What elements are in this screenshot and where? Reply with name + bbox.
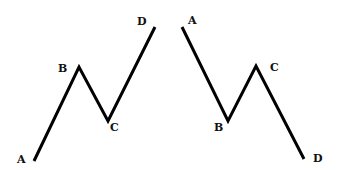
abcd-pattern-diagram: A B C D A B C D — [0, 0, 338, 170]
label-c: C — [270, 61, 279, 74]
bullish-pattern: A B C D — [16, 15, 155, 166]
label-d: D — [137, 15, 147, 28]
label-b: B — [58, 62, 67, 75]
label-b: B — [214, 121, 223, 134]
label-d: D — [313, 152, 323, 165]
bullish-zigzag-line — [34, 27, 155, 161]
label-a: A — [187, 14, 197, 27]
bearish-pattern: A B C D — [182, 14, 323, 165]
label-c: C — [110, 121, 119, 134]
label-a: A — [16, 153, 26, 166]
bearish-zigzag-line — [182, 27, 304, 159]
